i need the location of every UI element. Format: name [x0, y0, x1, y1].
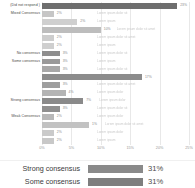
chart-row: 1%Lorem ipsum dolor sit amet — [42, 121, 189, 129]
bar-value-label: 2% — [80, 18, 85, 26]
legend-item-value: 31% — [148, 162, 163, 175]
bar-value-label: 1% — [92, 121, 97, 129]
bar-value-label: 2% — [57, 113, 62, 121]
bar-value-label: 2% — [57, 137, 62, 145]
chart-row: No consensus3%Lorem ipsum dolor sit — [42, 50, 189, 58]
x-axis-tick: 20% — [156, 146, 164, 150]
chart-legend: Strong consensus31%Some consensus31% — [0, 160, 195, 188]
chart-row: 2%Lorem ipsum — [42, 42, 189, 50]
bar-note-text: Lorem ipsum — [97, 58, 115, 66]
chart-row: 17% — [42, 74, 189, 82]
chart-row: 10%Lorem ipsum dolor sit amet — [42, 26, 189, 34]
legend-item-label: Some consensus — [4, 175, 80, 188]
bar — [42, 59, 60, 65]
bar-chart: (Did not respond )23%Mixed Consensus2%Lo… — [0, 0, 195, 160]
bar — [42, 122, 89, 128]
legend-item-bar — [88, 165, 143, 173]
category-label: No consensus — [0, 50, 40, 58]
bar — [42, 98, 83, 104]
bar-note-text: Lorem ipsum dolor sit — [97, 10, 127, 18]
bar — [42, 66, 60, 72]
bar-note-text: Lorem ipsum dolor sit — [97, 66, 127, 74]
bar — [42, 51, 60, 57]
chart-row: 3%Lorem ipsum dolor sit — [42, 66, 189, 74]
chart-row: 2%Lorem ipsum — [42, 18, 189, 26]
category-label: Strong consensus — [0, 97, 40, 105]
bar-note-text: Lorem ipsum — [97, 137, 115, 145]
bar — [42, 74, 142, 80]
legend-item-label: Strong consensus — [4, 162, 80, 175]
bar-value-label: 3% — [63, 105, 68, 113]
bar-value-label: 3% — [63, 50, 68, 58]
chart-row: 3%Lorem ipsum dolor sit — [42, 105, 189, 113]
bar — [42, 130, 54, 136]
bar-note-text: Lorem ipsum dolor — [97, 113, 123, 121]
x-axis: 0%5%10%15%20%25% — [42, 146, 189, 158]
legend-item-bar — [88, 178, 143, 186]
chart-row: Some consensus3%Lorem ipsum — [42, 58, 189, 66]
bar-value-label: 4% — [69, 89, 74, 97]
x-axis-tick: 15% — [126, 146, 134, 150]
chart-row: (Did not respond )23% — [42, 2, 189, 10]
bar-note-text: Lorem ipsum — [97, 18, 115, 26]
chart-plot-area: (Did not respond )23%Mixed Consensus2%Lo… — [42, 2, 189, 145]
bar-value-label: 10% — [104, 26, 111, 34]
bar — [42, 11, 54, 17]
x-axis-tick: 10% — [97, 146, 105, 150]
bar-value-label: 2% — [57, 42, 62, 50]
bar-value-label: 17% — [145, 74, 152, 82]
bar-note-text: Lorem ipsum dolor — [97, 89, 123, 97]
bar-note-text: Lorem ipsum — [97, 42, 115, 50]
bar-value-label: 2% — [57, 129, 62, 137]
bar — [42, 138, 54, 144]
bar — [42, 106, 60, 112]
bar-value-label: 7% — [86, 97, 91, 105]
legend-item[interactable]: Some consensus31% — [0, 175, 195, 188]
bar — [42, 43, 54, 49]
category-label: Weak Consensus — [0, 113, 40, 121]
chart-row: Mixed Consensus2%Lorem ipsum dolor sit — [42, 10, 189, 18]
chart-row: Weak Consensus2%Lorem ipsum dolor — [42, 113, 189, 121]
bar — [42, 19, 77, 25]
chart-row: 2%Lorem ipsum dolor — [42, 129, 189, 137]
chart-row: 2%Lorem ipsum — [42, 137, 189, 145]
legend-divider — [0, 160, 195, 161]
bar — [42, 90, 66, 96]
x-axis-tick: 25% — [185, 146, 193, 150]
chart-row: Strong consensus7%Lorem ipsum dolor — [42, 97, 189, 105]
category-label: Mixed Consensus — [0, 10, 40, 18]
bar-note-text: Lorem ipsum dolor sit amet — [117, 26, 155, 34]
bar-value-label: 2% — [57, 10, 62, 18]
category-label: Some consensus — [0, 58, 40, 66]
category-label: (Did not respond ) — [0, 2, 40, 10]
bar-note-text: Lorem ipsum dolor — [99, 97, 125, 105]
bar — [42, 3, 177, 9]
x-axis-tick: 0% — [39, 146, 45, 150]
bar-note-text: Lorem ipsum dolor sit — [97, 105, 127, 113]
bar-note-text: Lorem ipsum dolor sit amet — [97, 81, 135, 89]
gridline-25 — [189, 2, 190, 145]
bar-value-label: 3% — [63, 58, 68, 66]
bar — [42, 82, 60, 88]
bar-note-text: Lorem ipsum dolor sit amet — [97, 34, 135, 42]
bar — [42, 27, 101, 33]
bar-value-label: 2% — [57, 34, 62, 42]
bar-value-label: 3% — [63, 81, 68, 89]
bar-value-label: 23% — [180, 2, 187, 10]
bar-note-text: Lorem ipsum dolor sit — [97, 50, 127, 58]
bar — [42, 114, 54, 120]
chart-row: 4%Lorem ipsum dolor — [42, 89, 189, 97]
legend-item-value: 31% — [148, 175, 163, 188]
chart-row: 2%Lorem ipsum dolor sit amet — [42, 34, 189, 42]
chart-row: 3%Lorem ipsum dolor sit amet — [42, 81, 189, 89]
legend-item[interactable]: Strong consensus31% — [0, 162, 195, 175]
x-axis-tick: 5% — [69, 146, 75, 150]
bar-note-text: Lorem ipsum dolor — [97, 129, 123, 137]
bar-value-label: 3% — [63, 66, 68, 74]
bar-note-text: Lorem ipsum dolor sit amet — [105, 121, 143, 129]
bar — [42, 35, 54, 41]
